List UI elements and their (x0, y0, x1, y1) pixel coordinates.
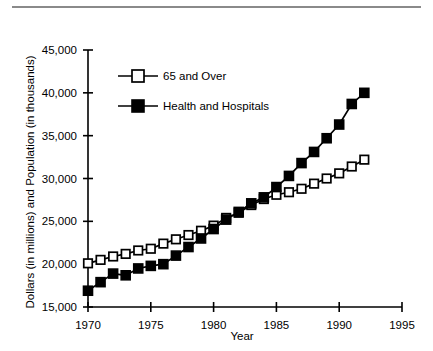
data-point-marker (310, 179, 319, 188)
x-tick-label: 1975 (138, 319, 164, 331)
data-point-marker (272, 183, 281, 192)
data-point-marker (209, 225, 218, 234)
y-tick-label: 25,000 (42, 215, 77, 227)
data-point-marker (335, 169, 344, 178)
data-point-marker (84, 259, 93, 268)
x-axis-title: Year (230, 330, 253, 342)
legend-entry-0: 65 and Over (118, 70, 226, 82)
data-point-marker (297, 159, 306, 168)
legend-label-1: Health and Hospitals (163, 100, 269, 112)
y-axis-title: Dollars (in millions) and Population (in… (24, 55, 36, 308)
data-point-marker (259, 193, 268, 202)
data-point-marker (172, 235, 181, 244)
data-point-marker (247, 199, 256, 208)
data-point-marker (360, 88, 369, 97)
y-tick-label: 20,000 (42, 258, 77, 270)
data-point-marker (134, 246, 143, 255)
data-point-marker (121, 250, 129, 259)
legend-entry-1: Health and Hospitals (118, 100, 269, 112)
data-point-marker (360, 155, 369, 164)
series-line (88, 93, 364, 291)
y-tick-label: 45,000 (42, 44, 77, 56)
data-point-marker (347, 99, 356, 108)
open-square-icon (132, 70, 144, 82)
data-point-marker (146, 261, 155, 270)
data-point-marker (147, 245, 156, 254)
data-point-marker (234, 207, 243, 216)
data-point-marker (348, 162, 357, 171)
data-point-marker (159, 239, 168, 248)
x-tick-label: 1995 (389, 319, 415, 331)
x-tick-label: 1990 (326, 319, 352, 331)
y-tick-label: 15,000 (42, 301, 77, 313)
x-tick-label: 1970 (75, 319, 101, 331)
data-point-marker (84, 286, 93, 295)
data-point-marker (96, 278, 105, 287)
data-point-marker (322, 174, 331, 183)
legend-label-0: 65 and Over (163, 70, 226, 82)
data-point-marker (184, 243, 193, 252)
data-point-marker (335, 120, 344, 129)
data-point-marker (134, 264, 143, 273)
series-0 (84, 155, 369, 267)
y-tick-label: 30,000 (42, 173, 77, 185)
data-point-marker (310, 147, 319, 156)
x-tick-label: 1985 (264, 319, 290, 331)
data-point-marker (121, 271, 130, 280)
series-1 (84, 88, 369, 295)
data-point-marker (197, 234, 206, 243)
data-point-marker (285, 188, 294, 197)
data-point-marker (159, 260, 168, 269)
y-axis-tick-labels: 15,00020,00025,00030,00035,00040,00045,0… (42, 44, 77, 313)
line-chart-canvas: 15,00020,00025,00030,00035,00040,00045,0… (0, 0, 433, 351)
data-point-marker (109, 269, 118, 278)
data-point-marker (297, 185, 306, 194)
x-tick-label: 1980 (201, 319, 227, 331)
chart-figure: 15,00020,00025,00030,00035,00040,00045,0… (0, 0, 433, 351)
chart-legend: 65 and Over Health and Hospitals (118, 70, 269, 112)
data-point-marker (284, 171, 293, 180)
data-point-marker (222, 215, 231, 224)
data-series-layer (84, 88, 369, 295)
data-point-marker (171, 251, 180, 260)
data-point-marker (184, 231, 193, 240)
y-tick-label: 40,000 (42, 87, 77, 99)
filled-square-icon (132, 100, 144, 112)
data-point-marker (96, 256, 105, 265)
y-tick-label: 35,000 (42, 130, 77, 142)
data-point-marker (322, 134, 331, 143)
data-point-marker (109, 252, 118, 261)
